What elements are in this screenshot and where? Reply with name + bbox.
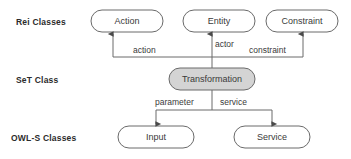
- node-label-service[interactable]: Service: [257, 133, 287, 142]
- edge-label-constraint: constraint: [249, 46, 286, 55]
- edge-label-action: action: [133, 46, 156, 55]
- row-label-owls: OWL-S Classes: [11, 134, 76, 143]
- edge-label-parameter: parameter: [155, 98, 194, 107]
- node-label-entity[interactable]: Entity: [208, 17, 231, 26]
- node-label-input[interactable]: Input: [146, 133, 166, 142]
- edge-label-actor: actor: [215, 40, 234, 49]
- row-label-set: SeT Class: [16, 76, 58, 85]
- row-label-rei: Rei Classes: [16, 18, 66, 27]
- edge-label-service: service: [220, 98, 247, 107]
- node-label-constraint[interactable]: Constraint: [281, 17, 322, 26]
- node-label-action[interactable]: Action: [114, 17, 139, 26]
- node-label-transformation[interactable]: Transformation: [182, 75, 242, 84]
- diagram-canvas: Rei Classes SeT Class OWL-S Classes Acti…: [0, 0, 351, 159]
